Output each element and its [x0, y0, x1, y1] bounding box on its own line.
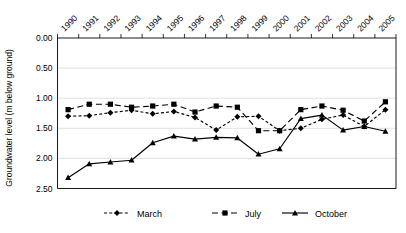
y-tick-label: 1.00 — [36, 93, 53, 103]
data-point-marker — [222, 210, 227, 215]
data-point-marker — [319, 103, 324, 108]
y-tick-label: 0.50 — [36, 63, 53, 73]
data-point-marker — [192, 109, 197, 114]
data-point-marker — [65, 107, 70, 112]
y-axis-title: Groundwater level (m below ground) — [4, 49, 14, 187]
legend-label: October — [315, 209, 347, 219]
data-point-marker — [277, 128, 282, 133]
data-point-marker — [256, 128, 261, 133]
data-point-marker — [150, 103, 155, 108]
data-point-marker — [383, 99, 388, 104]
data-point-marker — [87, 102, 92, 107]
data-point-marker — [108, 102, 113, 107]
chart-canvas: 0.000.501.001.502.002.50 199019911992199… — [0, 0, 406, 233]
data-point-marker — [298, 107, 303, 112]
data-point-marker — [362, 118, 367, 123]
y-tick-label: 1.50 — [36, 123, 53, 133]
legend-label: July — [245, 209, 262, 219]
data-point-marker — [171, 102, 176, 107]
data-point-marker — [235, 105, 240, 110]
y-tick-label: 2.50 — [36, 184, 53, 194]
data-point-marker — [129, 105, 134, 110]
data-point-marker — [214, 103, 219, 108]
y-axis-title-label: Groundwater level (m below ground) — [4, 49, 14, 187]
y-tick-label: 0.00 — [36, 33, 53, 43]
y-tick-label: 2.00 — [36, 153, 53, 163]
groundwater-level-chart: 0.000.501.001.502.002.50 199019911992199… — [0, 0, 406, 233]
data-point-marker — [341, 108, 346, 113]
legend-label: March — [137, 209, 162, 219]
